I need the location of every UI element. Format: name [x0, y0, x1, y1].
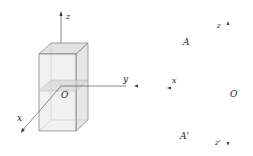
left-figure: z y x O: [17, 11, 129, 133]
origin-label: O: [61, 90, 69, 100]
x-label: x: [172, 76, 177, 85]
diagram-canvas: z y x O z A x O A' z': [0, 0, 253, 156]
right-figure: z A x O A' z': [134, 21, 238, 147]
z-prime-label: z': [214, 139, 221, 147]
point-a-label: A: [182, 37, 190, 47]
left-arrow-icon: [134, 85, 138, 88]
z-axis-label: z: [65, 12, 71, 21]
z-arrow-icon: [60, 11, 63, 16]
origin-label-right: O: [230, 89, 238, 99]
y-axis-label: y: [122, 74, 129, 84]
x-left-arrow-icon: [167, 87, 171, 90]
z-down-arrow-icon: [227, 142, 230, 146]
z-label: z: [216, 22, 221, 30]
box-front-face: [39, 54, 76, 131]
z-up-arrow-icon: [227, 21, 230, 25]
point-a-prime-label: A': [179, 131, 189, 141]
x-axis-label: x: [17, 113, 22, 123]
